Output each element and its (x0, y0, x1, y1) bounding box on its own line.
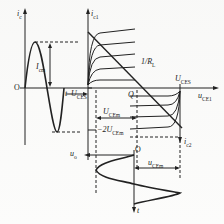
current-sine-wave (25, 42, 64, 132)
uces-left-label: UCES (71, 90, 87, 100)
uo-axis-arrow-icon (84, 153, 90, 157)
uce1-label: uCE1 (198, 92, 212, 102)
left-axis-arrow-icon (23, 8, 27, 14)
output-voltage-sine (96, 155, 180, 204)
ic1-label: ic1 (91, 10, 98, 20)
origin-bottom-label: O (135, 146, 141, 154)
icm-label: Icm (36, 63, 45, 73)
ucem-bottom-label: uCEm (148, 159, 163, 169)
uce1-axis-arrow-icon (213, 86, 219, 90)
two-ucem-label: −2UCEm (97, 126, 124, 136)
ic1-axis-arrow-icon (86, 8, 90, 14)
load-slope-label: 1/RL (141, 58, 155, 68)
uo-label: uo (70, 150, 77, 160)
ic-label: ic (17, 10, 22, 20)
uces-right-label: UCES (175, 75, 191, 85)
origin-left-label: O (14, 84, 20, 92)
bottom-time-arrow-icon (132, 207, 136, 213)
q-point-label: Q (128, 91, 134, 99)
ic2-label: ic2 (184, 138, 191, 148)
t-left-label: t (65, 90, 67, 98)
t-bottom-label: t (137, 207, 139, 215)
ucem-label: UCEm (103, 108, 120, 118)
